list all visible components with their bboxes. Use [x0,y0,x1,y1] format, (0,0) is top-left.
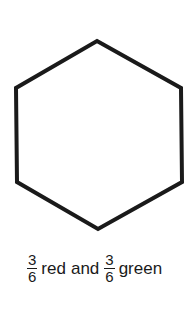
caption: 3 6 red and 3 6 green [27,253,167,284]
label-red: red [41,259,66,279]
fraction-red-numerator: 3 [27,253,37,269]
fraction-red: 3 6 [27,253,37,284]
fraction-red-denominator: 6 [28,269,36,284]
fraction-green: 3 6 [104,253,114,284]
fraction-green-numerator: 3 [104,253,114,269]
fraction-green-denominator: 6 [105,269,113,284]
label-green: green [119,259,162,279]
hexagon-outline [16,41,182,229]
label-and: and [71,259,99,279]
hexagon-figure [0,0,194,250]
